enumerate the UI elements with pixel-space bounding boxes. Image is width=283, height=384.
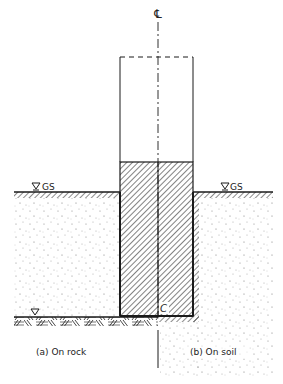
centerline-symbol: ℄ <box>153 7 162 21</box>
ground-hatch-left <box>14 192 120 198</box>
soil-left <box>14 198 120 316</box>
ground-surface-marker-right: GS <box>221 182 243 192</box>
ground-surface-marker-left: GS <box>32 182 55 192</box>
ground-hatch-right <box>193 192 273 198</box>
pile-shaft <box>120 162 193 316</box>
caption-on-rock: (a) On rock <box>36 347 87 357</box>
pile-bottom-label: C <box>160 303 167 314</box>
svg-text:GS: GS <box>230 182 243 192</box>
rock-layer <box>14 317 158 326</box>
water-level-triangle-icon <box>32 183 40 189</box>
water-level-triangle-icon <box>221 183 229 189</box>
caption-on-soil: (b) On soil <box>190 347 236 357</box>
pile-foundation-diagram: ℄ GS GS C (a) On rock (b) On soil <box>0 0 283 384</box>
svg-text:GS: GS <box>42 182 55 192</box>
